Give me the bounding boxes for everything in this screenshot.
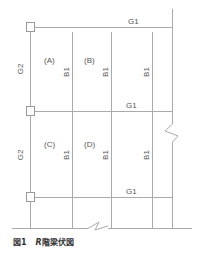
column-square-top: [27, 23, 35, 32]
label-g1-bottom: G1: [126, 187, 137, 196]
label-g2-lower: G2: [16, 149, 25, 160]
label-b1-upper-3: B1: [142, 67, 151, 77]
break-mark-right: [165, 124, 178, 142]
column-square-bottom: [27, 193, 35, 202]
beam-plan-diagram: G1 G1 G1 G2 G2 B1 B1 B1 B1 B1 B1 (A) (B)…: [0, 0, 200, 259]
break-mark-bottom: [88, 222, 108, 230]
figure-title: 階梁伏図: [42, 238, 74, 247]
label-b1-lower-1: B1: [62, 150, 71, 160]
panel-label-c: (C): [44, 140, 55, 149]
label-b1-upper-2: B1: [101, 67, 110, 77]
column-square-middle: [27, 107, 35, 116]
label-g1-middle: G1: [126, 101, 137, 110]
figure-caption: 図1R階梁伏図: [13, 236, 74, 247]
label-g2-upper: G2: [16, 63, 25, 74]
label-b1-lower-3: B1: [142, 150, 151, 160]
panel-label-d: (D): [84, 140, 95, 149]
figure-number: 図1: [13, 238, 27, 247]
panel-label-b: (B): [84, 56, 95, 65]
label-b1-upper-1: B1: [62, 67, 71, 77]
label-g1-top: G1: [128, 17, 139, 26]
panel-label-a: (A): [44, 56, 55, 65]
label-b1-lower-2: B1: [101, 150, 110, 160]
